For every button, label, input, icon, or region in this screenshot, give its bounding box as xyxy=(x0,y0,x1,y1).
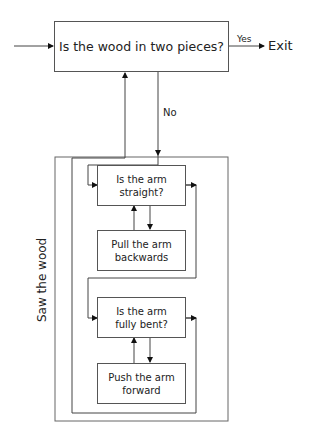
decision-wood-in-two-pieces: Is the wood in two pieces? xyxy=(54,21,229,72)
step-text: fully bent? xyxy=(115,318,168,331)
step-text: Push the arm xyxy=(108,371,174,384)
action-push-arm-forward: Push the armforward xyxy=(97,363,186,404)
step-text: Is the arm xyxy=(115,305,168,318)
no-label: No xyxy=(163,107,177,118)
action-pull-arm-backwards: Pull the armbackwards xyxy=(97,230,186,271)
exit-label: Exit xyxy=(268,38,293,53)
step-text: Is the arm xyxy=(116,173,167,186)
decision-text: Is the wood in two pieces? xyxy=(59,39,224,54)
yes-label: Yes xyxy=(237,34,252,44)
step-text: backwards xyxy=(111,251,171,264)
step-text: forward xyxy=(108,384,174,397)
step-text: straight? xyxy=(116,186,167,199)
group-label-saw-the-wood: Saw the wood xyxy=(35,238,49,322)
step-text: Pull the arm xyxy=(111,238,171,251)
decision-arm-fully-bent: Is the armfully bent? xyxy=(97,297,186,338)
decision-arm-straight: Is the armstraight? xyxy=(97,165,186,206)
